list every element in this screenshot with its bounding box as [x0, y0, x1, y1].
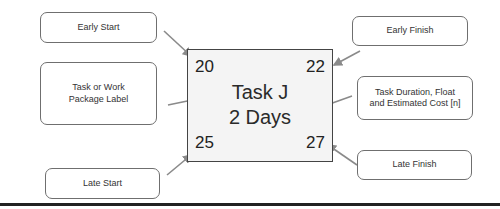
early-start-callout: Early Start — [40, 12, 157, 43]
duration-callout-line1: Task Duration, Float — [375, 87, 455, 98]
early-finish-callout: Early Finish — [352, 16, 468, 46]
early-finish-value: 22 — [306, 57, 325, 77]
task-label-callout-line1: Task or Work — [72, 82, 124, 93]
task-label-callout-line2: Package Label — [69, 94, 129, 105]
bottom-divider — [0, 203, 500, 206]
late-start-callout-label: Late Start — [83, 178, 122, 189]
early-finish-callout-label: Early Finish — [386, 25, 433, 36]
early-start-callout-label: Early Start — [77, 22, 119, 33]
late-finish-callout-label: Late Finish — [392, 159, 436, 170]
duration-callout: Task Duration, Float and Estimated Cost … — [357, 76, 473, 120]
late-start-callout: Late Start — [45, 168, 160, 199]
duration-callout-line2: and Estimated Cost [n] — [369, 98, 460, 109]
late-finish-callout: Late Finish — [357, 150, 472, 180]
task-node: 20 22 Task J 2 Days 25 27 — [187, 49, 333, 162]
task-label-callout: Task or Work Package Label — [40, 62, 157, 125]
late-start-value: 25 — [195, 133, 214, 153]
task-name: Task J — [188, 81, 332, 104]
early-start-value: 20 — [195, 57, 214, 77]
late-finish-value: 27 — [306, 133, 325, 153]
task-duration: 2 Days — [188, 106, 332, 129]
